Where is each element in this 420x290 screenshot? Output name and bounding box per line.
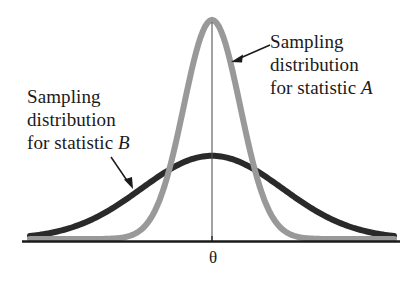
- statistic-a-symbol: A: [361, 77, 373, 98]
- statistic-b-arrow: [111, 157, 133, 189]
- statistic-a-arrow: [231, 45, 270, 63]
- statistic-b-annotation-line2: distribution: [27, 108, 130, 131]
- statistic-b-symbol: B: [118, 132, 130, 153]
- statistic-b-annotation: Sampling distribution for statistic B: [27, 85, 130, 154]
- statistic-a-annotation-line1: Sampling: [270, 30, 373, 53]
- sampling-distribution-figure: Sampling distribution for statistic A Sa…: [0, 0, 420, 290]
- statistic-b-annotation-line3-prefix: for statistic: [27, 132, 118, 153]
- statistic-a-annotation-line3-prefix: for statistic: [270, 77, 361, 98]
- statistic-a-annotation-line3: for statistic A: [270, 76, 373, 99]
- statistic-b-annotation-line3: for statistic B: [27, 131, 130, 154]
- statistic-a-annotation: Sampling distribution for statistic A: [270, 30, 373, 99]
- theta-axis-label: θ: [203, 248, 223, 268]
- statistic-a-annotation-line2: distribution: [270, 53, 373, 76]
- statistic-b-annotation-line1: Sampling: [27, 85, 130, 108]
